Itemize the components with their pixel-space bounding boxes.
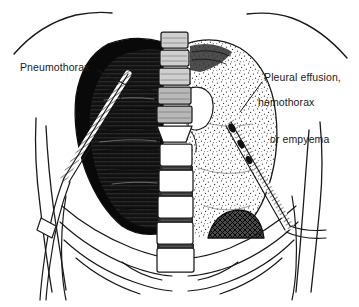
- label-effusion-line-1: Pleural effusion,: [264, 71, 341, 83]
- label-effusion-line-2: hemothorax: [252, 96, 341, 109]
- spine: [157, 32, 194, 272]
- label-effusion-line-3: or empyema: [252, 133, 341, 146]
- chest-illustration: Pneumothorax Pleural effusion, hemothora…: [0, 0, 359, 307]
- label-pleural-effusion: Pleural effusion, hemothorax or empyema: [252, 58, 341, 171]
- label-pneumothorax: Pneumothorax: [20, 61, 90, 74]
